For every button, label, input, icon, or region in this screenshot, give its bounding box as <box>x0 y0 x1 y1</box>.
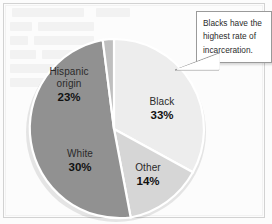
callout-annotation: Blacks have the highest rate of incarcer… <box>196 11 272 63</box>
callout-text: Blacks have the highest rate of incarcer… <box>203 17 266 57</box>
figure-container: Hispanic origin 23% Black 33% White 30% … <box>0 0 272 224</box>
callout-pointer-tail <box>174 53 220 75</box>
